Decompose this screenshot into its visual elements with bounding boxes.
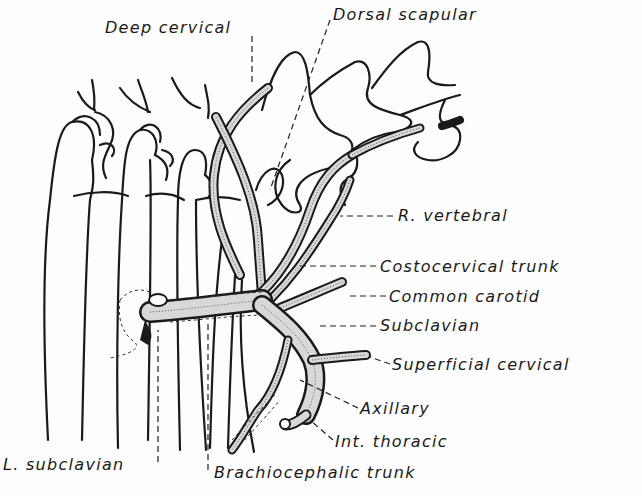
label-l-subclavian: L. subclavian [3,457,125,473]
label-brachiocephalic-trunk: Brachiocephalic trunk [214,465,416,481]
anatomy-figure: Deep cervical Dorsal scapular R. vertebr… [0,0,642,496]
label-common-carotid: Common carotid [389,289,540,305]
label-deep-cervical: Deep cervical [105,20,231,36]
label-int-thoracic: Int. thoracic [335,434,448,450]
leader-lines [158,20,393,470]
label-costocervical-trunk: Costocervical trunk [380,259,560,275]
rib-outlines [45,78,284,452]
label-subclavian: Subclavian [380,318,480,334]
subclavian-artery-drawing [0,0,642,496]
label-axillary: Axillary [360,401,430,417]
label-dorsal-scapular: Dorsal scapular [333,7,477,23]
label-superficial-cervical: Superficial cervical [392,357,570,373]
label-r-vertebral: R. vertebral [398,208,508,224]
